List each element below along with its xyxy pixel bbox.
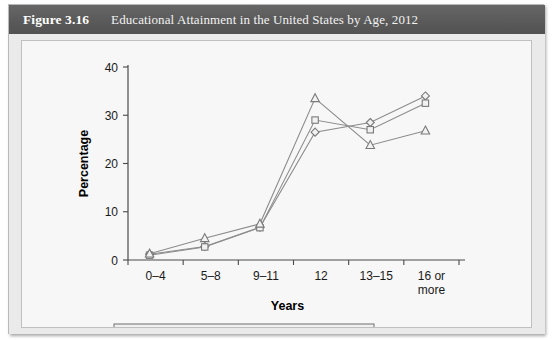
- x-axis-tick-label: more: [418, 283, 446, 297]
- x-axis-tick-label: 16 or: [418, 269, 445, 283]
- y-axis-tick-label: 30: [105, 109, 119, 123]
- figure-title-text: Educational Attainment in the United Sta…: [111, 12, 418, 28]
- data-point-marker-diamond: [366, 118, 374, 126]
- data-point-marker-diamond: [311, 128, 319, 136]
- data-point-marker-square: [367, 127, 373, 133]
- series-line: [150, 98, 426, 253]
- data-point-marker-square: [422, 100, 428, 106]
- x-axis-title: Years: [271, 299, 304, 313]
- y-axis-title: Percentage: [77, 130, 91, 197]
- x-axis-tick-label: 12: [314, 269, 328, 283]
- x-axis-tick-label: 9–11: [253, 269, 279, 283]
- data-point-marker-square: [202, 244, 208, 250]
- chart-panel: 010203040Percentage0–45–89–111213–1516 o…: [21, 40, 532, 328]
- x-axis-tick-label: 0–4: [146, 269, 166, 283]
- data-point-marker-diamond: [421, 92, 429, 100]
- data-point-marker-square: [312, 117, 318, 123]
- y-axis-tick-label: 40: [105, 61, 119, 75]
- chart-series: [145, 94, 429, 257]
- line-chart: 010203040Percentage0–45–89–111213–1516 o…: [22, 41, 531, 327]
- figure-number-label: Figure 3.16: [23, 12, 89, 28]
- data-point-marker-triangle: [311, 94, 319, 102]
- data-point-marker-triangle: [421, 126, 429, 134]
- figure-body: 010203040Percentage0–45–89–111213–1516 o…: [9, 34, 545, 334]
- y-axis-tick-label: 0: [111, 254, 118, 268]
- figure-container: Figure 3.16 Educational Attainment in th…: [8, 4, 544, 334]
- x-axis-tick-label: 5–8: [201, 269, 221, 283]
- y-axis-tick-label: 10: [105, 205, 119, 219]
- y-axis-tick-label: 20: [105, 157, 119, 171]
- figure-title-bar: Figure 3.16 Educational Attainment in th…: [9, 5, 545, 34]
- x-axis-tick-label: 13–15: [360, 269, 394, 283]
